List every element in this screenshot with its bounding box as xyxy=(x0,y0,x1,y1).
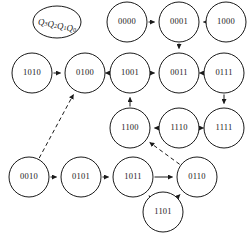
state-node-1100: 1100 xyxy=(110,108,150,148)
state-label-1111: 1111 xyxy=(216,122,233,132)
state-label-0011: 0011 xyxy=(170,67,188,77)
state-label-1100: 1100 xyxy=(121,122,139,132)
nodes-layer: Q3Q2Q1Q010100100000000011000100100110111… xyxy=(9,2,246,232)
state-label-1001: 1001 xyxy=(121,67,139,77)
state-node-0000: 0000 xyxy=(107,2,147,42)
state-node-1010: 1010 xyxy=(12,53,52,93)
state-label-0101: 0101 xyxy=(72,171,90,181)
edge-0010-to-0100 xyxy=(39,95,73,158)
legend-node: Q3Q2Q1Q0 xyxy=(33,6,81,38)
state-diagram: Q3Q2Q1Q010100100000000011000100100110111… xyxy=(0,0,248,234)
state-node-1011: 1011 xyxy=(113,157,153,197)
state-node-0001: 0001 xyxy=(159,2,199,42)
edge-1101-to-0110 xyxy=(178,195,180,197)
state-label-1000: 1000 xyxy=(217,16,235,26)
state-node-0011: 0011 xyxy=(159,53,199,93)
state-node-1000: 1000 xyxy=(206,2,246,42)
state-label-0010: 0010 xyxy=(20,171,38,181)
state-label-0000: 0000 xyxy=(118,16,136,26)
state-node-1111: 1111 xyxy=(204,108,244,148)
state-label-0100: 0100 xyxy=(76,67,94,77)
state-label-0001: 0001 xyxy=(170,16,188,26)
state-node-0110: 0110 xyxy=(177,157,217,197)
state-label-1110: 1110 xyxy=(170,122,187,132)
state-node-0100: 0100 xyxy=(65,53,105,93)
state-node-0101: 0101 xyxy=(61,157,101,197)
state-label-1011: 1011 xyxy=(124,171,142,181)
state-node-0010: 0010 xyxy=(9,157,49,197)
state-node-1101: 1101 xyxy=(143,192,183,232)
state-label-0110: 0110 xyxy=(188,171,206,181)
state-label-0111: 0111 xyxy=(215,67,232,77)
state-label-1101: 1101 xyxy=(154,206,172,216)
state-diagram-canvas: Q3Q2Q1Q010100100000000011000100100110111… xyxy=(0,0,248,234)
state-node-1001: 1001 xyxy=(110,53,150,93)
state-node-1110: 1110 xyxy=(159,108,199,148)
state-label-1010: 1010 xyxy=(23,67,41,77)
state-node-0111: 0111 xyxy=(204,53,244,93)
